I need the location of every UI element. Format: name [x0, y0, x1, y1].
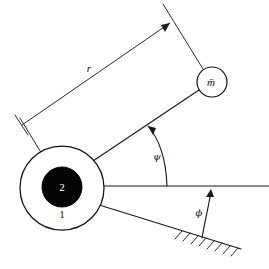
inclined-ground-group — [96, 204, 241, 256]
radius-dimension-label: r — [87, 62, 92, 74]
incline-angle-label: ϕ — [196, 207, 203, 218]
rod-angle-arrowhead — [148, 126, 156, 135]
radius-dimension-arrowhead — [161, 23, 170, 32]
inclined-ground-line — [96, 204, 241, 249]
rod-line — [93, 90, 199, 161]
incline-angle-arrowhead — [206, 189, 214, 197]
incline-angle-arc — [202, 191, 211, 238]
inner-mass-label: 2 — [59, 181, 65, 193]
incline-angle-group — [202, 189, 214, 238]
point-mass-label: m̄ — [207, 76, 215, 88]
rod-angle-label: ψ — [153, 151, 161, 162]
figure-canvas: r ψ ϕ m̄ 2 1 — [0, 0, 269, 269]
mechanics-diagram: r ψ ϕ m̄ 2 1 — [0, 0, 269, 269]
outer-cylinder-label: 1 — [59, 208, 65, 220]
radius-dimension-start-tick — [15, 115, 28, 135]
radius-extension-line-mass — [163, 4, 203, 69]
radius-dimension-line — [22, 23, 170, 125]
ground-hatching — [175, 231, 238, 256]
